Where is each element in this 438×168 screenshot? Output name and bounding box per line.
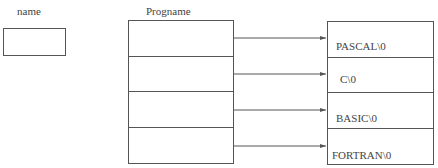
pointer-arrows [0, 0, 438, 168]
